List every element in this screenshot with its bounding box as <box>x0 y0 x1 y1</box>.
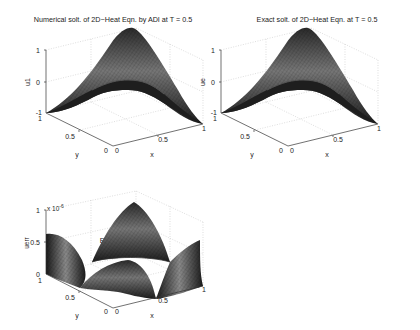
x-tick-far: 1 <box>202 125 206 132</box>
x-axis-label: x <box>150 312 154 319</box>
plot-title: Numerical solt. of 2D−Heat Eqn. by ADI a… <box>34 15 192 24</box>
y-tick-far: 1 <box>38 115 42 122</box>
z-tick-mid: 0 <box>36 79 40 86</box>
y-tick-mid: 0.5 <box>65 133 75 140</box>
plot-numerical-solution: Numerical solt. of 2D−Heat Eqn. by ADI a… <box>24 15 206 159</box>
x-axis-label: x <box>325 151 329 158</box>
x-tick-mid: 0.5 <box>158 297 168 304</box>
y-tick-near: 0 <box>104 147 108 154</box>
y-tick-far: 1 <box>213 115 217 122</box>
z-multiplier: x 10-6 <box>47 203 64 212</box>
z-axis-label: uerr <box>23 236 30 248</box>
z-tick-mid: 0.5 <box>30 239 40 246</box>
x-axis-label: x <box>150 151 154 158</box>
figure: Numerical solt. of 2D−Heat Eqn. by ADI a… <box>0 0 420 330</box>
y-axis-label: y <box>75 312 79 320</box>
y-tick-near: 0 <box>104 308 108 315</box>
x-tick-mid: 0.5 <box>158 136 168 143</box>
z-axis-label: u1 <box>24 78 31 86</box>
y-tick-near: 0 <box>279 147 283 154</box>
x-tick-far: 1 <box>377 125 381 132</box>
y-tick-mid: 0.5 <box>65 294 75 301</box>
z-tick-top: 1 <box>211 47 215 54</box>
plot-error: Error at T = 0.5 x 10-6 <box>23 191 206 320</box>
z-tick-mid: 0 <box>211 79 215 86</box>
plot-exact-solution: Exact solt. of 2D−Heat Eqn. at T = 0.5 <box>199 15 381 159</box>
z-tick-top: 1 <box>36 207 40 214</box>
y-axis-label: y <box>250 151 254 159</box>
y-tick-mid: 0.5 <box>240 133 250 140</box>
z-axis-label: ue <box>199 78 206 86</box>
x-tick-near: 0 <box>115 308 119 315</box>
x-tick-far: 1 <box>202 286 206 293</box>
x-tick-mid: 0.5 <box>333 136 343 143</box>
x-tick-near: 0 <box>115 147 119 154</box>
surface-u1 <box>46 28 203 124</box>
y-axis-label: y <box>75 151 79 159</box>
z-tick-top: 1 <box>36 47 40 54</box>
plot-title: Exact solt. of 2D−Heat Eqn. at T = 0.5 <box>257 15 378 24</box>
surface-ue <box>221 28 378 124</box>
x-tick-near: 0 <box>290 147 294 154</box>
y-tick-far: 1 <box>38 277 42 284</box>
surface-uerr <box>46 202 203 299</box>
